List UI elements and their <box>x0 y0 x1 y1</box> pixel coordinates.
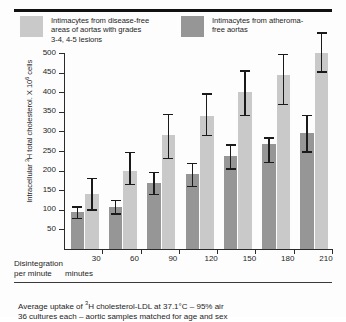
y-axis-tick-label: 300 <box>43 126 56 135</box>
chart-error-bar <box>77 206 78 219</box>
y-axis-tick: 400 <box>59 92 65 93</box>
legend-swatch <box>20 16 43 37</box>
legend-label: Intimacytes from atheroma- free aortas <box>212 16 303 35</box>
legend-swatch <box>181 16 204 37</box>
y-axis-tick-label: 400 <box>43 87 56 96</box>
y-axis-title-pre: Intracellular <box>25 162 34 203</box>
x-axis-tick-label: 210 <box>319 254 332 263</box>
y-axis-title-post: cells <box>25 60 34 77</box>
y-axis-tick-label: 350 <box>43 106 56 115</box>
y-axis-tick-label: 100 <box>43 204 56 213</box>
x-axis-tick-label: 120 <box>204 254 217 263</box>
x-axis-tick-label: 150 <box>243 254 256 263</box>
chart-error-bar <box>268 137 269 163</box>
legend-label: Intimacytes from disease-free areas of a… <box>51 16 149 44</box>
y-axis-tick-label: 200 <box>43 165 56 174</box>
y-axis-tick: 350 <box>59 112 65 113</box>
y-axis-tick: 450 <box>59 73 65 74</box>
y-axis-title: Intracellular 3H total cholesterol. X 10… <box>24 43 35 219</box>
x-axis-tick-label: 30 <box>92 254 101 263</box>
chart-error-bar <box>230 144 231 169</box>
y-axis-tick: 100 <box>59 210 65 211</box>
x-axis-tick <box>141 249 142 254</box>
x-axis-tick <box>179 249 180 254</box>
x-axis-line <box>64 249 332 250</box>
chart-error-bar <box>283 54 284 105</box>
chart-error-bar <box>153 172 154 196</box>
plot-area-wrapper: Intracellular 3H total cholesterol. X 10… <box>14 52 334 257</box>
chart-error-bar <box>244 70 245 115</box>
chart-error-bar <box>192 163 193 187</box>
x-axis-tick-label: 90 <box>168 254 177 263</box>
top-rule-divider <box>14 9 332 12</box>
y-axis-tick-label: 500 <box>43 48 56 57</box>
footnote-line1-pre: Average uptake of <box>18 301 85 310</box>
chart-error-bar <box>91 178 92 211</box>
y-axis-tick: 150 <box>59 190 65 191</box>
y-axis-tick: 50 <box>59 229 65 230</box>
y-axis-title-sup-3: 3 <box>24 159 30 162</box>
chart-error-bar <box>115 200 116 215</box>
chart-error-bar <box>206 93 207 136</box>
y-axis-tick-label: 150 <box>43 185 56 194</box>
y-axis-tick-label: 250 <box>43 146 56 155</box>
y-axis-tick: 300 <box>59 131 65 132</box>
footnote-line2: 36 cultures each – aortic samples matche… <box>18 312 227 321</box>
y-axis-tick: 200 <box>59 171 65 172</box>
chart-bar <box>315 53 329 249</box>
footnote-rule-divider <box>14 282 332 283</box>
legend-entry: Intimacytes from disease-free areas of a… <box>20 16 180 44</box>
x-axis-tick-label: 180 <box>281 254 294 263</box>
chart-axes: 5010015020025030035040045050030609012015… <box>64 54 332 250</box>
y-axis-tick: 250 <box>59 151 65 152</box>
chart-error-bar <box>306 115 307 153</box>
footnote-line1-post: H cholesterol-LDL at 37.1°C – 95% air <box>88 301 223 310</box>
chart-error-bar <box>321 32 322 72</box>
chart-bar <box>224 156 238 249</box>
x-axis-units-label: minutes <box>65 269 93 278</box>
y-axis-tick-label: 450 <box>43 67 56 76</box>
y-axis-title-mid: H total cholesterol. X 10 <box>25 80 34 159</box>
y-axis-tick: 500 <box>59 53 65 54</box>
x-axis-tick-label: 60 <box>130 254 139 263</box>
chart-legend: Intimacytes from disease-free areas of a… <box>14 15 334 49</box>
figure-footnote: Average uptake of 3H cholesterol-LDL at … <box>18 287 338 322</box>
x-axis-tick <box>102 249 103 254</box>
x-axis-title: Disintegration per minute <box>14 259 63 278</box>
y-axis-line <box>64 54 65 250</box>
chart-error-bar <box>168 114 169 159</box>
y-axis-tick-label: 50 <box>47 224 56 233</box>
chart-error-bar <box>129 152 130 185</box>
